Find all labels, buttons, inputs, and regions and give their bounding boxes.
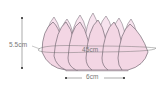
- base-width-label: 6cm: [86, 73, 99, 80]
- circumference-label: 45cm: [82, 46, 98, 53]
- lotus-dimension-diagram: 5.5cm 45cm 6cm: [0, 0, 167, 93]
- height-label: 5.5cm: [9, 41, 27, 48]
